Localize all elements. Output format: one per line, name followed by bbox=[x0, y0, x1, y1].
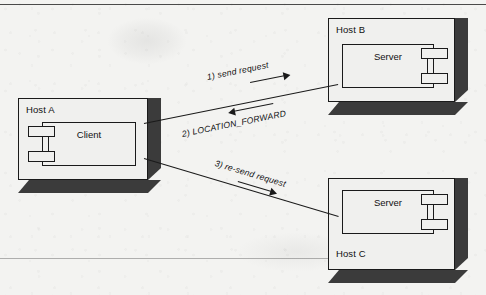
frame-top-rule bbox=[0, 4, 486, 5]
connection-label-send-request: 1) send request bbox=[206, 60, 269, 82]
node-host-c[interactable]: Host C Server bbox=[328, 178, 455, 270]
diagram-canvas: Host A Client Host B Server Host C bbox=[0, 0, 486, 295]
component-server-c[interactable]: Server bbox=[342, 190, 434, 234]
host-c-bottom-face bbox=[328, 270, 468, 283]
host-b-bottom-face bbox=[328, 102, 468, 115]
component-server-b[interactable]: Server bbox=[342, 44, 434, 88]
client-port-upper-icon bbox=[28, 126, 55, 137]
client-name: Client bbox=[42, 129, 136, 140]
scan-smudge-upper-left bbox=[108, 18, 186, 64]
host-c-side-face bbox=[455, 178, 468, 270]
component-client[interactable]: Client bbox=[42, 122, 136, 166]
host-a-label: Host A bbox=[26, 104, 55, 115]
server-b-port-upper-icon bbox=[421, 48, 448, 59]
server-c-port-upper-icon bbox=[421, 194, 448, 205]
server-b-port-lower-icon bbox=[421, 73, 448, 84]
host-b-label: Host B bbox=[336, 24, 365, 35]
host-b-side-face bbox=[455, 18, 468, 102]
host-a-bottom-face bbox=[18, 180, 161, 193]
host-c-label: Host C bbox=[336, 248, 366, 259]
node-host-a[interactable]: Host A Client bbox=[18, 98, 148, 180]
arrow-send-request bbox=[250, 74, 291, 82]
server-c-port-lower-icon bbox=[421, 219, 448, 230]
client-port-lower-icon bbox=[28, 151, 55, 162]
host-a-side-face bbox=[148, 98, 161, 180]
node-host-b[interactable]: Host B Server bbox=[328, 18, 455, 102]
